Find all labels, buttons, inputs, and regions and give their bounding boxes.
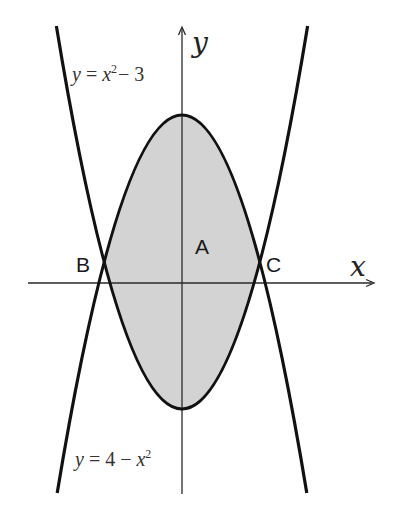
x-axis-label: x	[350, 250, 366, 283]
bottom-curve-equation-label: y = 4 − x2	[73, 447, 151, 471]
y-axis-label: y	[190, 26, 209, 59]
region-a-label: A	[195, 235, 209, 258]
point-c-label: C	[266, 253, 281, 276]
top-curve-equation-label: y = x2− 3	[70, 62, 144, 86]
point-b-label: B	[76, 253, 90, 276]
area-between-parabolas-diagram: y x B C A y = x2− 3 y = 4 − x2	[0, 0, 396, 519]
